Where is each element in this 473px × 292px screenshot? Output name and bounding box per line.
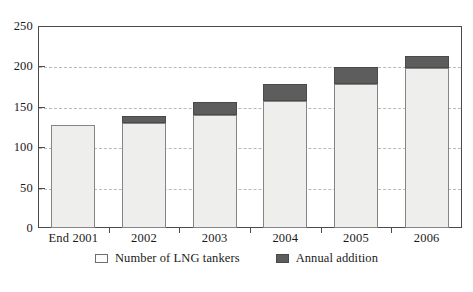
y-axis-tick-label: 150 xyxy=(14,101,33,114)
x-axis-tick-label: 2003 xyxy=(202,232,228,245)
x-axis-tick-label: End 2001 xyxy=(48,232,98,245)
chart-legend: Number of LNG tankersAnnual addition xyxy=(0,252,473,265)
bars-layer xyxy=(38,26,462,228)
y-axis-tick-mark xyxy=(38,107,45,108)
bar-segment-annual-addition xyxy=(193,102,237,115)
bar-segment-annual-addition xyxy=(334,67,378,84)
legend-item: Number of LNG tankers xyxy=(95,252,240,265)
legend-swatch-tankers-icon xyxy=(95,254,108,263)
bar-segment-tankers xyxy=(193,115,237,228)
bar-group xyxy=(263,84,307,228)
y-axis-tick-label: 50 xyxy=(20,181,33,194)
bar-group xyxy=(193,102,237,228)
y-axis-tick-label: 100 xyxy=(14,141,33,154)
bar-segment-tankers xyxy=(334,84,378,228)
x-axis-tick-label: 2004 xyxy=(272,232,298,245)
bar-group xyxy=(405,56,449,228)
y-axis-tick-label: 0 xyxy=(27,222,33,235)
legend-item: Annual addition xyxy=(276,252,378,265)
bar-segment-annual-addition xyxy=(263,84,307,101)
chart-figure: 050100150200250 End 20012002200320042005… xyxy=(0,0,473,292)
bar-segment-annual-addition xyxy=(405,56,449,68)
x-axis: End 200120022003200420052006 xyxy=(38,232,462,252)
x-axis-tick-label: 2006 xyxy=(414,232,440,245)
y-axis-tick-mark xyxy=(38,66,45,67)
legend-label: Number of LNG tankers xyxy=(115,252,240,265)
bar-segment-tankers xyxy=(263,101,307,228)
bar-segment-tankers xyxy=(405,68,449,228)
bar-group xyxy=(122,116,166,228)
x-axis-tick-label: 2002 xyxy=(131,232,157,245)
y-axis: 050100150200250 xyxy=(0,26,33,228)
y-axis-tick-label: 200 xyxy=(14,60,33,73)
legend-swatch-annual-addition-icon xyxy=(276,254,289,263)
y-axis-tick-mark xyxy=(38,147,45,148)
x-axis-tick-label: 2005 xyxy=(343,232,369,245)
legend-label: Annual addition xyxy=(296,252,378,265)
bar-group xyxy=(334,67,378,228)
bar-segment-tankers xyxy=(122,123,166,228)
bar-segment-annual-addition xyxy=(122,116,166,123)
bar-group xyxy=(51,125,95,228)
y-axis-tick-label: 250 xyxy=(14,20,33,33)
y-axis-tick-mark xyxy=(38,188,45,189)
bar-segment-tankers xyxy=(51,125,95,228)
